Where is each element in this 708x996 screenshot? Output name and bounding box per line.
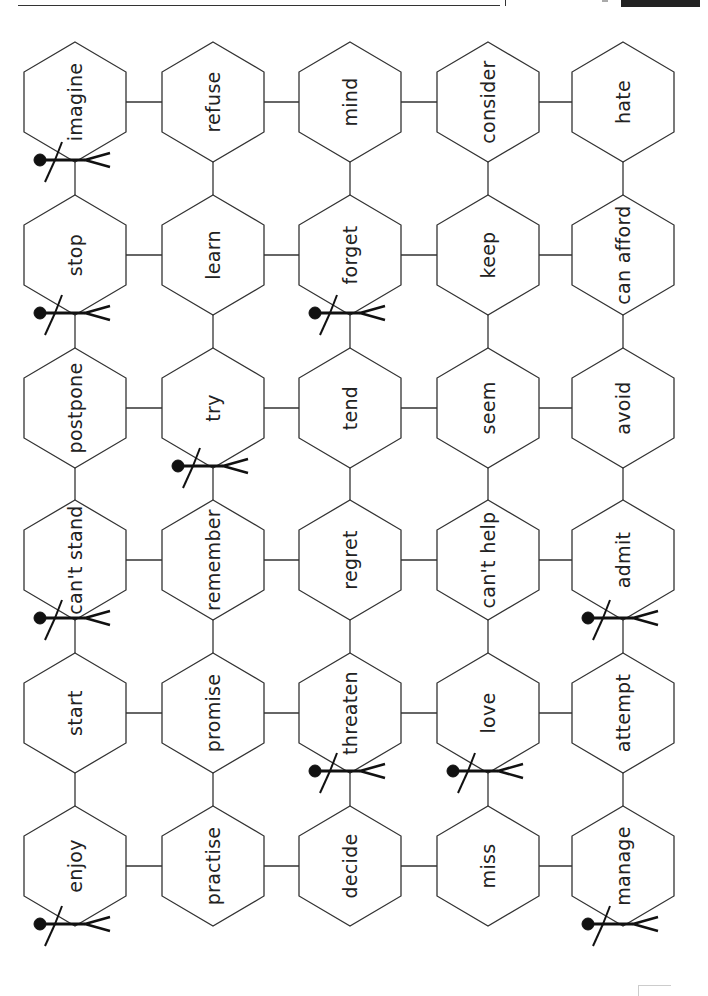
cell-label-learn: learn: [198, 195, 228, 315]
cell-label-mind: mind: [335, 42, 365, 162]
cell-label-forget: forget: [335, 195, 365, 315]
cell-label-hate: hate: [608, 42, 638, 162]
page-corner-mark: [638, 985, 671, 996]
cell-label-stop: stop: [60, 195, 90, 315]
cell-label-refuse: refuse: [198, 42, 228, 162]
cell-label-decide: decide: [335, 806, 365, 926]
cell-label-attempt: attempt: [608, 653, 638, 773]
cell-label-regret: regret: [335, 500, 365, 620]
cell-label-threaten: threaten: [335, 653, 365, 773]
cell-label-consider: consider: [473, 42, 503, 162]
cell-label-manage: manage: [608, 806, 638, 926]
cell-label-can-t-stand: can't stand: [60, 500, 90, 620]
cell-label-try: try: [198, 348, 228, 468]
cell-label-miss: miss: [473, 806, 503, 926]
cell-label-promise: promise: [198, 653, 228, 773]
cell-label-tend: tend: [335, 348, 365, 468]
cell-label-start: start: [60, 653, 90, 773]
cell-label-enjoy: enjoy: [60, 806, 90, 926]
cell-label-seem: seem: [473, 348, 503, 468]
cell-label-remember: remember: [198, 500, 228, 620]
cell-label-love: love: [473, 653, 503, 773]
cell-label-can-t-help: can't help: [473, 500, 503, 620]
cell-label-avoid: avoid: [608, 348, 638, 468]
cell-label-can-afford: can afford: [608, 195, 638, 315]
cell-label-admit: admit: [608, 500, 638, 620]
cell-label-practise: practise: [198, 806, 228, 926]
cell-label-imagine: imagine: [60, 42, 90, 162]
cell-label-keep: keep: [473, 195, 503, 315]
cell-label-postpone: postpone: [60, 348, 90, 468]
